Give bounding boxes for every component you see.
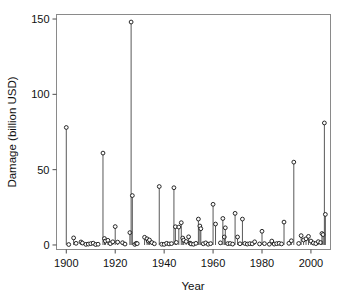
data-point-marker	[221, 217, 225, 221]
data-point-marker	[282, 220, 286, 224]
data-point-marker	[241, 217, 245, 221]
data-point-marker	[129, 20, 133, 24]
y-tick-label: 100	[31, 88, 49, 100]
damage-by-year-chart-figure: 050100150 190019201940196019802000 Damag…	[0, 0, 347, 299]
data-point-marker	[323, 213, 327, 217]
data-point-marker	[223, 226, 227, 230]
data-point-marker	[263, 242, 267, 246]
x-tick-label: 1980	[250, 257, 274, 269]
chart-background	[0, 0, 347, 299]
chart-canvas: 050100150 190019201940196019802000 Damag…	[0, 0, 347, 299]
data-point-marker	[74, 241, 78, 245]
data-point-marker	[174, 241, 178, 245]
data-point-marker	[96, 242, 100, 246]
data-point-marker	[260, 229, 264, 233]
data-point-marker	[194, 241, 198, 245]
data-point-marker	[322, 121, 326, 125]
data-point-marker	[280, 242, 284, 246]
data-point-marker	[152, 242, 156, 246]
data-point-marker	[211, 202, 215, 206]
data-point-marker	[64, 126, 68, 130]
x-tick-label: 1900	[54, 257, 78, 269]
x-tick-label: 1940	[152, 257, 176, 269]
data-point-marker	[172, 186, 176, 190]
y-tick-label: 150	[31, 13, 49, 25]
x-axis-title: Year	[181, 280, 204, 292]
x-tick-label: 1960	[201, 257, 225, 269]
x-tick-label: 1920	[103, 257, 127, 269]
data-point-marker	[231, 242, 235, 246]
data-point-marker	[111, 240, 115, 244]
data-point-marker	[123, 242, 127, 246]
data-point-marker	[253, 240, 257, 244]
data-point-marker	[219, 241, 223, 245]
data-point-marker	[113, 225, 117, 229]
data-point-marker	[238, 242, 242, 246]
data-point-marker	[157, 185, 161, 189]
data-point-marker	[199, 227, 203, 231]
data-point-marker	[135, 242, 139, 246]
data-point-marker	[209, 242, 213, 246]
data-point-marker	[67, 243, 71, 247]
data-point-marker	[72, 236, 76, 240]
data-point-marker	[177, 225, 181, 229]
x-tick-label: 2000	[299, 257, 323, 269]
data-point-marker	[179, 221, 183, 225]
data-point-marker	[233, 211, 237, 215]
y-tick-label: 50	[37, 164, 49, 176]
data-point-marker	[101, 151, 105, 155]
data-point-marker	[170, 242, 174, 246]
y-tick-label: 0	[43, 239, 49, 251]
data-point-marker	[289, 239, 293, 243]
data-point-marker	[130, 194, 134, 198]
data-point-marker	[236, 235, 240, 239]
data-point-marker	[297, 242, 301, 246]
data-point-marker	[292, 160, 296, 164]
y-axis-title: Damage (billion USD)	[6, 76, 18, 187]
data-point-marker	[184, 240, 188, 244]
data-point-marker	[116, 240, 120, 244]
data-point-marker	[187, 235, 191, 239]
data-point-marker	[196, 217, 200, 221]
data-point-marker	[258, 242, 262, 246]
data-point-marker	[299, 234, 303, 238]
data-point-marker	[307, 234, 311, 238]
data-point-marker	[214, 222, 218, 226]
